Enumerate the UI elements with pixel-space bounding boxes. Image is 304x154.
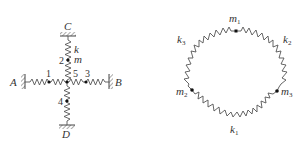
label-a: A <box>9 76 17 88</box>
mass-5 <box>65 80 68 83</box>
mass-1 <box>47 80 50 83</box>
mass-m1 <box>235 30 238 33</box>
mass-4 <box>65 99 68 102</box>
label-mass-3: 3 <box>85 68 90 79</box>
label-m2: m2 <box>176 85 188 99</box>
label-k1: k1 <box>230 123 239 137</box>
mass-3 <box>84 80 87 83</box>
spring-k1 <box>192 90 277 117</box>
mass-2 <box>66 58 69 61</box>
spring-k3 <box>184 27 236 90</box>
cross-spring-system: C D A B k m 1 2 3 4 5 <box>9 20 122 140</box>
wall-b <box>109 74 113 89</box>
label-mass-2: 2 <box>59 55 64 66</box>
label-mass-1: 1 <box>46 68 51 79</box>
diagram-canvas: C D A B k m 1 2 3 4 5 m1 m2 m3 k1 k2 k3 <box>0 0 304 154</box>
label-m3: m3 <box>281 85 293 99</box>
label-mass-4: 4 <box>58 96 63 107</box>
label-mass-5: 5 <box>73 68 78 79</box>
label-m: m <box>74 53 82 65</box>
label-d: D <box>61 128 70 140</box>
label-m1: m1 <box>229 12 241 26</box>
label-k2: k2 <box>283 33 292 47</box>
mass-m3 <box>275 89 279 93</box>
wall-a <box>21 74 25 89</box>
label-c: C <box>64 20 72 32</box>
mass-m2 <box>190 88 194 92</box>
label-k3: k3 <box>177 33 186 47</box>
spring-ring-system: m1 m2 m3 k1 k2 k3 <box>176 12 293 137</box>
label-b: B <box>115 76 122 88</box>
spring-k2 <box>236 27 287 91</box>
wall-c <box>60 32 76 36</box>
